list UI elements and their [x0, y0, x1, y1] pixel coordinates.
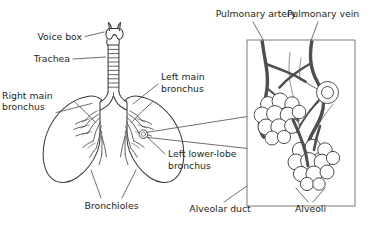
- leader-bronchioles-left: [91, 170, 101, 198]
- label-left-main-bronchus-line2: bronchus: [161, 83, 204, 94]
- label-bronchioles: Bronchioles: [85, 200, 139, 211]
- leader-alveolar-duct: [224, 186, 247, 202]
- right-lung: [43, 96, 101, 182]
- label-pulmonary-vein: Pulmonary vein: [287, 8, 359, 19]
- trachea-structure: [108, 45, 119, 92]
- inset-content: [254, 40, 340, 191]
- diagram-canvas: Voice box Trachea Right main bronchus Le…: [0, 0, 374, 225]
- label-alveolar-duct: Alveolar duct: [189, 203, 251, 214]
- label-alveoli: Alveoli: [295, 203, 326, 214]
- left-lower-lobe-bronchus-marker: [139, 130, 148, 139]
- leader-pulmonary-artery: [253, 22, 264, 41]
- voice-box-structure: [106, 23, 123, 46]
- leader-trachea: [73, 57, 106, 59]
- leader-pulmonary-vein: [311, 22, 318, 41]
- respiratory-system-diagram: Voice box Trachea Right main bronchus Le…: [0, 0, 374, 225]
- label-pulmonary-artery: Pulmonary artery: [216, 8, 297, 19]
- label-voice-box: Voice box: [37, 31, 82, 42]
- label-trachea: Trachea: [33, 53, 70, 64]
- label-left-lower-lobe-bronchus-line2: bronchus: [168, 160, 211, 171]
- leader-voice-box: [85, 32, 104, 37]
- label-left-lower-lobe-bronchus-line1: Left lower-lobe: [168, 148, 237, 159]
- label-right-main-bronchus-line1: Right main: [2, 90, 53, 101]
- label-left-main-bronchus-line1: Left main: [161, 71, 205, 82]
- leader-bronchioles-right: [122, 170, 136, 198]
- label-right-main-bronchus-line2: bronchus: [2, 101, 45, 112]
